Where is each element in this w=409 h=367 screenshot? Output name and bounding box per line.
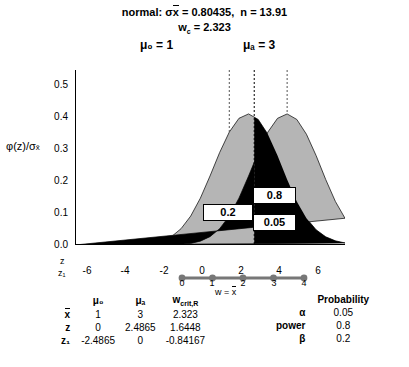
y-tick-0.1: 0.1 [42,207,68,218]
prob-key-beta: β [272,332,313,345]
x-tick-6: 6 [306,265,330,276]
mu-null-label: μ₀ = 1 [140,38,173,52]
table-row: power 0.8 [272,319,373,332]
chart-title-line1: normal: σx = 0.80435, n = 13.91 [0,6,409,18]
y-axis-label: φ(z)/σx̄ [6,140,40,152]
w-tick-4: 4 [294,278,314,288]
table-row: z₁ -2.4865 0 -0.84167 [56,334,210,347]
table-row: β 0.2 [272,332,373,345]
cell-xbar-wcrit: 2.323 [161,308,210,321]
mu-alt-label: μₐ = 3 [243,38,275,52]
prob-key-alpha: α [272,306,313,319]
x-tick--4: -4 [113,265,137,276]
cell-z1-mua: 0 [120,334,161,347]
y-tick-0.5: 0.5 [42,79,68,90]
col-head-blank [56,293,76,308]
col-head-mua: μₐ [120,293,161,308]
row-head-z1: z₁ [56,334,76,347]
prob-val-beta: 0.2 [313,332,373,345]
y-tick-0.0: 0.0 [42,239,68,250]
chart-page: normal: σx = 0.80435, n = 13.91 wc = 2.3… [0,0,409,367]
cell-z1-wcrit: -0.84167 [161,334,210,347]
prob-head-blank [272,293,313,306]
col-head-mu0: μ₀ [76,293,120,308]
cell-xbar-mu0: 1 [76,308,120,321]
prob-val-power: 0.8 [313,319,373,332]
table-row: α 0.05 [272,306,373,319]
alpha-callout: 0.05 [253,214,296,231]
y-tick-0.3: 0.3 [42,143,68,154]
y-tick-0.2: 0.2 [42,175,68,186]
chart-title-line2: wc = 2.323 [0,21,409,35]
y-tick-0.4: 0.4 [42,111,68,122]
beta-callout: 0.2 [203,204,253,221]
table-header-row: μ₀ μₐ wcrit,R [56,293,210,308]
table-row: x 1 3 2.323 [56,308,210,321]
prob-key-power: power [272,319,313,332]
row-head-xbar: x [56,308,76,321]
w-tick-3: 3 [264,278,284,288]
z1-axis-name: z₁ [58,268,66,278]
prob-head-probability: Probability [313,293,373,306]
cell-z-mu0: 0 [76,321,120,334]
summary-table: μ₀ μₐ wcrit,R x 1 3 2.323 z 0 2.4865 1.6… [56,293,210,347]
z-axis-name: z [60,256,65,266]
cell-z-wcrit: 1.6448 [161,321,210,334]
cell-xbar-mua: 3 [120,308,161,321]
w-axis-label: w = x [215,287,236,297]
table-row: z 0 2.4865 1.6448 [56,321,210,334]
cell-z-mua: 2.4865 [120,321,161,334]
mu-labels: μ₀ = 1 μₐ = 3 [0,38,409,54]
w-tick-0: 0 [172,278,192,288]
x-tick--6: -6 [75,265,99,276]
x-tick--2: -2 [152,265,176,276]
cell-z1-mu0: -2.4865 [76,334,120,347]
row-head-z: z [56,321,76,334]
col-head-wcrit: wcrit,R [161,293,210,308]
prob-val-alpha: 0.05 [313,306,373,319]
probability-table: Probability α 0.05 power 0.8 β 0.2 [272,293,373,345]
probability-header-row: Probability [272,293,373,306]
power-callout: 0.8 [253,187,296,204]
